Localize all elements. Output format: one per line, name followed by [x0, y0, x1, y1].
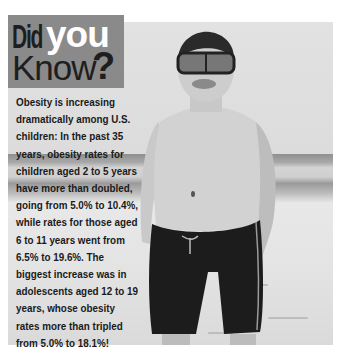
text-line: from 5.0% to 18.1%!: [16, 335, 157, 352]
question-mark-icon: ?: [92, 47, 115, 85]
text-line: dramatically among U.S.: [16, 111, 157, 128]
boy-figure: [138, 22, 308, 345]
title-know: Know: [12, 50, 96, 86]
text-line: Obesity is increasing: [16, 94, 157, 111]
obesity-facts-text: Obesity is increasing dramatically among…: [16, 94, 157, 352]
text-line: years, obesity rates for: [16, 146, 157, 163]
text-line: 6 to 11 years went from: [16, 232, 157, 249]
text-line: 6.5% to 19.6%. The: [16, 249, 157, 266]
text-line: children: In the past 35: [16, 128, 157, 145]
text-line: rates more than tripled: [16, 318, 157, 335]
text-line: children aged 2 to 5 years: [16, 163, 157, 180]
did-you-know-title: Did you Know ?: [8, 15, 124, 88]
text-line: while rates for those aged: [16, 214, 157, 231]
text-line: adolescents aged 12 to 19: [16, 283, 157, 300]
text-line: years, whose obesity: [16, 300, 157, 317]
text-line: have more than doubled,: [16, 180, 157, 197]
text-line: going from 5.0% to 10.4%,: [16, 197, 157, 214]
text-line: biggest increase was in: [16, 266, 157, 283]
